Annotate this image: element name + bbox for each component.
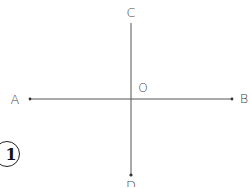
endpoint-d-dot: [129, 173, 132, 176]
point-label-d: D: [126, 179, 136, 188]
endpoint-a-dot: [29, 98, 32, 101]
figure-number: 1: [5, 145, 16, 164]
point-label-a: A: [11, 93, 20, 106]
point-label-c: C: [126, 6, 135, 19]
diagram-canvas: [0, 0, 251, 187]
point-label-b: B: [240, 92, 249, 105]
endpoint-b-dot: [231, 98, 234, 101]
point-label-o: O: [138, 82, 147, 94]
